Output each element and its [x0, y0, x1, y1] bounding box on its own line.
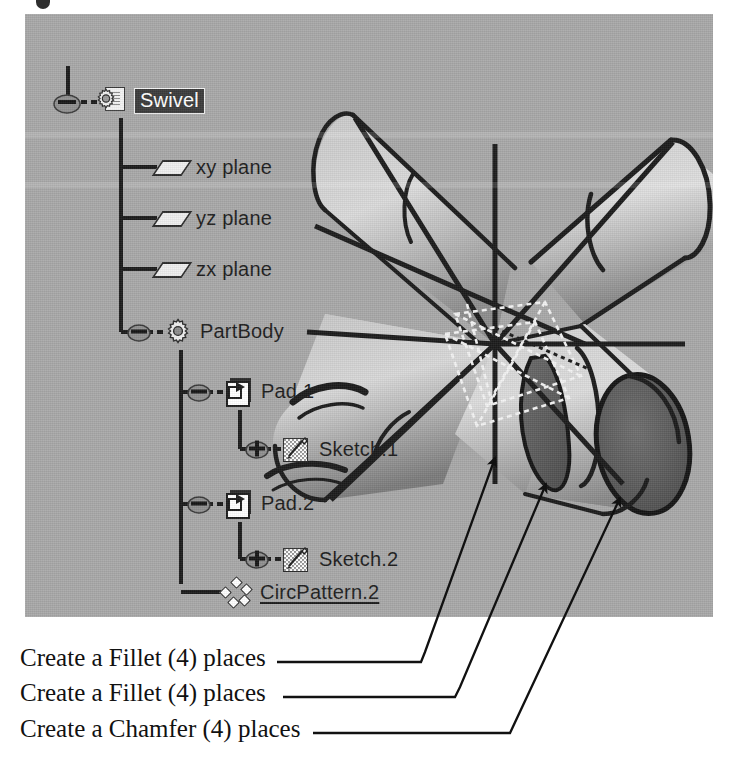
part-gear-document-icon — [95, 87, 125, 115]
annotation-captions: Create a Fillet (4) places Create a Fill… — [0, 617, 747, 763]
tree-node-sketch-2[interactable]: Sketch.2 — [283, 546, 398, 572]
plane-icon — [157, 158, 187, 176]
pencil-icon — [283, 437, 310, 462]
tree-node-label: zx plane — [196, 258, 272, 281]
arm-upper-right — [531, 140, 713, 326]
tree-node-label: Pad.1 — [261, 380, 314, 403]
plane-icon — [157, 260, 187, 278]
tree-handle-pad1[interactable] — [187, 381, 211, 403]
tree-node-yz-plane[interactable]: yz plane — [157, 205, 272, 231]
screenshot-root: Swivel xy plane yz plane zx plane — [0, 0, 747, 763]
tree-node-label: Sketch.1 — [319, 438, 398, 461]
tree-node-label: yz plane — [196, 207, 272, 230]
tree-node-label: PartBody — [200, 320, 284, 343]
tree-handle-sketch1[interactable] — [245, 438, 269, 460]
tree-handle-sketch2[interactable] — [245, 548, 269, 570]
partbody-gear-icon — [165, 318, 191, 344]
pencil-icon — [283, 547, 310, 572]
tree-handle-root[interactable] — [51, 90, 91, 114]
gear-icon — [165, 318, 191, 344]
pad-icon — [225, 378, 252, 405]
gear-icon — [95, 87, 117, 109]
tree-node-label: Sketch.2 — [319, 548, 398, 571]
tree-node-label: xy plane — [196, 156, 272, 179]
sketch-icon — [283, 437, 310, 462]
tree-handle-pad2[interactable] — [187, 493, 211, 515]
tree-node-xy-plane[interactable]: xy plane — [157, 154, 272, 180]
tree-node-sketch-1[interactable]: Sketch.1 — [283, 436, 398, 462]
annotation-caption: Create a Chamfer (4) places — [20, 715, 300, 743]
pad-icon — [225, 490, 252, 517]
top-edge-artifact — [36, 0, 50, 9]
tree-handle-partbody[interactable] — [127, 321, 151, 343]
cad-viewport[interactable]: Swivel xy plane yz plane zx plane — [25, 14, 713, 617]
tree-node-label: CircPattern.2 — [260, 581, 379, 604]
tree-node-pad-1[interactable]: Pad.1 — [225, 378, 314, 404]
tree-node-partbody[interactable]: PartBody — [165, 318, 284, 344]
specification-tree[interactable]: Swivel xy plane yz plane zx plane — [25, 14, 445, 617]
sketch-icon — [283, 547, 310, 572]
plane-icon — [157, 209, 187, 227]
tree-node-label: Pad.2 — [261, 492, 314, 515]
annotation-caption: Create a Fillet (4) places — [20, 679, 266, 707]
tree-node-pad-2[interactable]: Pad.2 — [225, 490, 314, 516]
annotation-caption: Create a Fillet (4) places — [20, 644, 266, 672]
circular-pattern-icon — [221, 578, 251, 606]
tree-node-swivel[interactable]: Swivel — [95, 88, 205, 114]
tree-node-zx-plane[interactable]: zx plane — [157, 256, 272, 282]
tree-node-circpattern-2[interactable]: CircPattern.2 — [221, 579, 379, 605]
tree-node-label: Swivel — [134, 88, 205, 114]
